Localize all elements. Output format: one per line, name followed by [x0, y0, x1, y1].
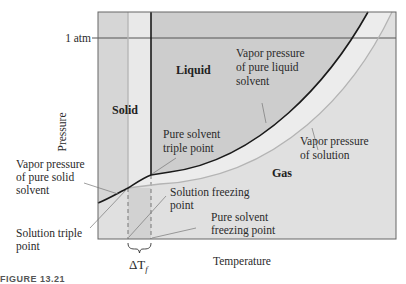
freezing-shade — [128, 188, 151, 239]
delta-t-brace — [128, 243, 151, 253]
y-axis-label: Pressure — [56, 113, 68, 152]
one-atm-label: 1 atm — [65, 32, 91, 44]
solid-label: Solid — [112, 103, 138, 117]
liquid-label: Liquid — [176, 63, 211, 77]
solution-triple-label: Solution triple point — [16, 227, 85, 253]
figure-caption: FIGURE 13.21 — [0, 274, 65, 284]
pure-freezing-label: Pure solvent freezing point — [211, 211, 276, 237]
gas-label: Gas — [272, 166, 292, 180]
x-axis-label: Temperature — [213, 255, 271, 268]
vp-solid-label: Vapor pressure of pure solid solvent — [16, 158, 88, 196]
delta-t-label: ΔTf — [129, 257, 149, 274]
